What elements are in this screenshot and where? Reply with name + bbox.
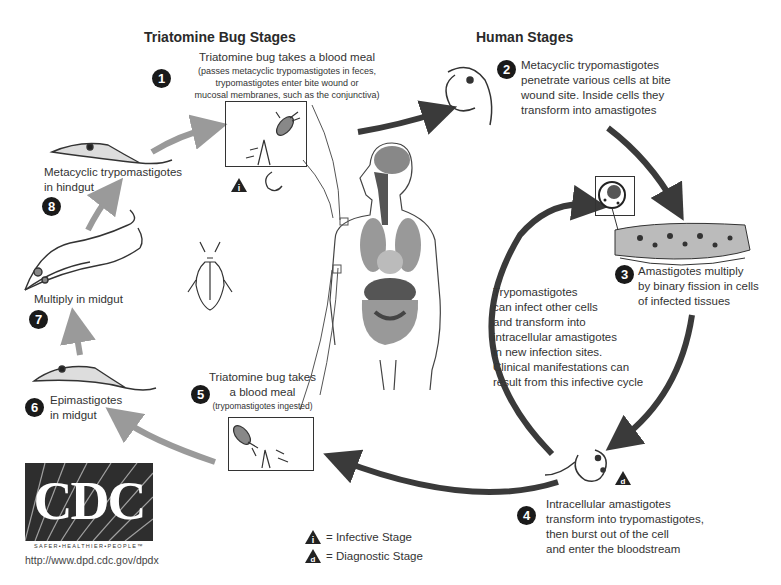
stage-1-detail-line: trypomastigotes enter bite wound or	[172, 77, 402, 89]
cycle-note-line: Clinical manifestations can	[493, 360, 643, 375]
cycle-note-line: in new infection sites.	[493, 345, 643, 360]
stage-5-label: Triatomine bug takes a blood meal (trypo…	[200, 370, 325, 412]
cycle-note-line: intracellular amastigotes	[493, 330, 643, 345]
stage-4-line: Intracellular amastigotes	[546, 497, 704, 512]
stage-badge-7: 7	[29, 310, 48, 329]
stage-3-line: Amastigotes multiply	[638, 264, 759, 279]
stage-3-label: Amastigotes multiply by binary fission i…	[638, 264, 759, 309]
stage-1-label: Triatomine bug takes a blood meal (passe…	[172, 50, 402, 101]
stage-2-line: wound site. Inside cells they	[521, 88, 671, 103]
stage-4-line: and enter the bloodstream	[546, 542, 704, 557]
stage-2-label: Metacyclic trypomastigotes penetrate var…	[521, 58, 671, 118]
stage-3-line: by binary fission in cells	[638, 279, 759, 294]
stage-badge-1: 1	[152, 69, 171, 88]
diagnostic-triangle-icon: d	[614, 470, 632, 486]
epimastigote-illustration-6	[34, 366, 156, 390]
arrow-8-to-1	[152, 128, 210, 152]
infective-stage-marker: i	[230, 177, 248, 197]
stage-badge-4: 4	[517, 506, 536, 525]
stage-5-line: Triatomine bug takes	[200, 370, 325, 385]
trypomastigote-illustration-2	[446, 68, 492, 126]
stage-badge-2: 2	[497, 60, 516, 79]
stage-4-label: Intracellular amastigotes transform into…	[546, 497, 704, 557]
stage-badge-3: 3	[615, 265, 634, 284]
arrow-6-to-7	[75, 325, 80, 355]
warning-triangle-icon: i	[230, 177, 248, 193]
reinfection-cycle-note: Trypomastigotes can infect other cells a…	[493, 285, 643, 390]
stage-badge-6: 6	[25, 398, 44, 417]
stage-4-line: then burst out of the cell	[546, 527, 704, 542]
arrow-5-to-6	[120, 418, 215, 462]
svg-text:i: i	[312, 535, 315, 545]
stage-6-line: in midgut	[50, 408, 122, 423]
cdc-tagline: SAFER•HEALTHIER•PEOPLE™	[25, 543, 153, 549]
stage-6-label: Epimastigotes in midgut	[50, 393, 122, 423]
diagnostic-stage-icon: d	[304, 548, 322, 564]
infected-tissue-illustration	[615, 223, 750, 265]
stage-3-cell-inset	[595, 176, 635, 216]
diagnostic-stage-marker: d	[614, 470, 632, 490]
trypomastigote-illustration-1	[266, 172, 282, 191]
heading-human-stages: Human Stages	[476, 29, 573, 45]
stage-7-label: Multiply in midgut	[34, 292, 123, 307]
heading-triatomine-stages: Triatomine Bug Stages	[144, 29, 296, 45]
svg-text:d: d	[311, 555, 316, 564]
arrow-7-to-8	[88, 192, 112, 230]
cycle-note-line: can infect other cells	[493, 300, 643, 315]
legend-diagnostic: d = Diagnostic Stage	[304, 548, 423, 564]
stage-3-line: of infected tissues	[638, 294, 759, 309]
stage-2-line: transform into amastigotes	[521, 103, 671, 118]
cdc-logo-text: CDC	[25, 471, 153, 531]
stage-badge-8: 8	[42, 197, 61, 216]
legend-infective: i = Infective Stage	[304, 529, 412, 545]
stage-2-line: penetrate various cells at bite	[521, 73, 671, 88]
cycle-note-line: and transform into	[493, 315, 643, 330]
arrow-4-to-5	[340, 460, 558, 492]
connector-lines	[300, 105, 348, 410]
cycle-note-line: Trypomastigotes	[493, 285, 643, 300]
svg-text:i: i	[238, 183, 241, 193]
stage-5-feeding-panel	[228, 417, 314, 471]
stage-2-line: Metacyclic trypomastigotes	[521, 58, 671, 73]
stage-5-line: a blood meal	[200, 385, 325, 400]
dividing-epimastigote-illustration-7	[25, 210, 142, 290]
stage-1-detail-line: (passes metacyclic trypomastigotes in fe…	[172, 65, 402, 77]
svg-text:d: d	[621, 477, 626, 486]
legend-infective-label: = Infective Stage	[326, 531, 412, 543]
cycle-note-line: result from this infective cycle	[493, 375, 643, 390]
stage-8-line: in hindgut	[44, 180, 182, 195]
infective-stage-icon: i	[304, 529, 322, 545]
cdc-logo: CDC	[25, 463, 153, 541]
stage-1-title: Triatomine bug takes a blood meal	[172, 50, 402, 65]
legend-diagnostic-label: = Diagnostic Stage	[326, 550, 423, 562]
source-url: http://www.dpd.cdc.gov/dpdx	[25, 554, 159, 566]
stage-5-detail: (trypomastigotes ingested)	[200, 400, 325, 412]
triatomine-bug-illustration	[188, 242, 232, 310]
stage-8-line: Metacyclic trypomastigotes	[44, 165, 182, 180]
arrow-1-to-2	[358, 112, 440, 132]
stage-1-bite-panel	[225, 101, 307, 167]
trypomastigote-illustration-4	[545, 450, 606, 481]
stage-6-line: Epimastigotes	[50, 393, 122, 408]
stage-4-line: transform into trypomastigotes,	[546, 512, 704, 527]
stage-1-detail-line: mucosal membranes, such as the conjuncti…	[172, 89, 402, 101]
stage-8-label: Metacyclic trypomastigotes in hindgut	[44, 165, 182, 195]
